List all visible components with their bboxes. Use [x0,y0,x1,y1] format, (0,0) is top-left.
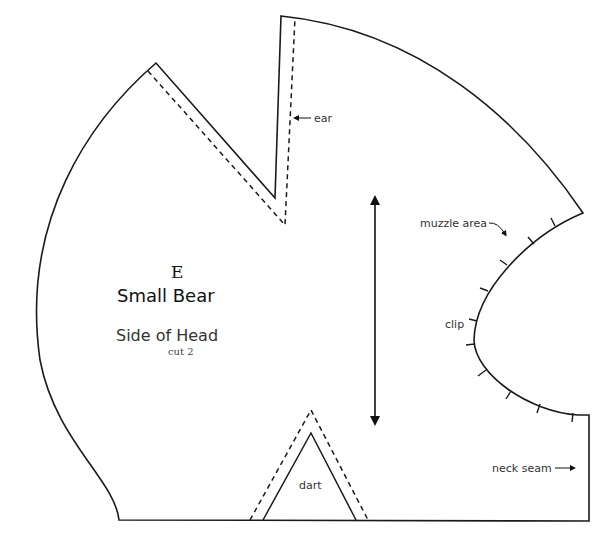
dart-cutting-line [263,433,356,520]
piece-letter: E [171,262,183,282]
ear-label: ear [314,112,332,125]
cut-instruction: cut 2 [168,346,194,357]
dart-label: dart [299,479,322,492]
pattern-piece-outline [0,0,616,542]
ear-seam-line [148,18,295,225]
muzzle-area-label: muzzle area [420,217,487,230]
cutting-line [37,16,589,521]
piece-name: Side of Head [116,326,218,345]
dart-seam-line [250,410,368,520]
project-name: Small Bear [117,285,215,306]
neck-seam-label: neck seam [492,462,552,475]
muzzle-pointer-arrow [489,223,505,234]
clip-label: clip [445,318,464,331]
clip-marks [466,218,573,422]
